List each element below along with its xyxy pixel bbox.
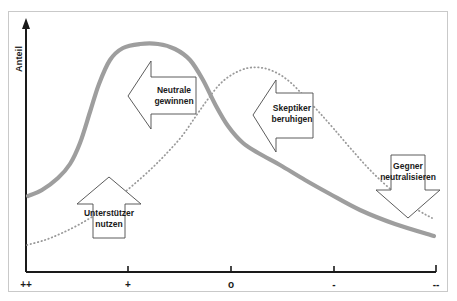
dotted-curve-series	[27, 67, 432, 245]
y-axis-arrowhead-icon	[22, 18, 30, 29]
callout-neutrale-line1: Neutrale	[157, 85, 191, 95]
y-axis-label: Anteil	[14, 46, 24, 72]
x-tick-label-minus: -	[332, 279, 335, 290]
callout-skeptiker-line1: Skeptiker	[273, 103, 312, 113]
callout-skeptiker-beruhigen[interactable]: Skeptiker beruhigen	[253, 80, 313, 152]
chart-figure: Anteil ++ + o - -- Unterstützer nutzen	[0, 0, 457, 301]
x-tick-label-plusplus: ++	[20, 279, 32, 290]
callout-gegner-neutralisieren[interactable]: Gegner neutralisieren	[376, 155, 440, 218]
callout-neutrale-gewinnen[interactable]: Neutrale gewinnen	[128, 61, 196, 129]
callout-skeptiker-line2: beruhigen	[271, 114, 312, 124]
callout-unterstuetzer-nutzen[interactable]: Unterstützer nutzen	[77, 177, 141, 238]
callout-neutrale-line2: gewinnen	[154, 96, 193, 106]
x-axis-group: ++ + o - --	[20, 265, 439, 290]
x-tick-label-neutral: o	[228, 279, 234, 290]
arrow-left-icon	[128, 61, 196, 129]
chart-plot-area: Anteil ++ + o - -- Unterstützer nutzen	[0, 0, 457, 301]
x-tick-label-minusminus: --	[433, 279, 440, 290]
x-tick-label-plus: +	[125, 279, 131, 290]
callout-unterstuetzer-line1: Unterstützer	[84, 208, 135, 218]
callout-unterstuetzer-line2: nutzen	[95, 219, 122, 229]
y-axis-group: Anteil	[14, 18, 30, 272]
callout-gegner-line2: neutralisieren	[380, 172, 436, 182]
callout-gegner-line1: Gegner	[393, 161, 423, 171]
